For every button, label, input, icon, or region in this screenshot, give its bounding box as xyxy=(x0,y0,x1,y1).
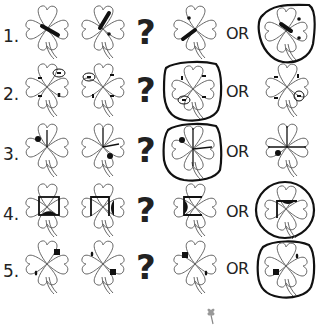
or-label: OR xyxy=(226,202,249,221)
row-number: 5. xyxy=(3,261,19,281)
row-number: 3. xyxy=(3,144,19,164)
or-label: OR xyxy=(226,259,249,278)
or-label: OR xyxy=(226,142,249,161)
question-mark: ? xyxy=(136,247,156,287)
row-number: 2. xyxy=(3,84,19,104)
question-mark: ? xyxy=(136,70,156,110)
clover-2 xyxy=(76,180,130,238)
clover-2 xyxy=(76,237,130,295)
option-b[interactable] xyxy=(253,180,317,238)
clover-2 xyxy=(76,120,130,178)
option-a[interactable] xyxy=(168,180,222,238)
clover-1 xyxy=(20,60,74,118)
option-b[interactable] xyxy=(260,60,314,118)
option-a[interactable] xyxy=(168,2,222,60)
option-a[interactable] xyxy=(160,60,224,118)
option-a[interactable] xyxy=(160,120,224,178)
puzzle-row-3: 3. ? OR xyxy=(0,120,321,178)
clover-2 xyxy=(76,60,130,118)
clover-1 xyxy=(20,120,74,178)
puzzle-row-1: 1. ? OR xyxy=(0,2,321,60)
row-number: 4. xyxy=(3,204,19,224)
question-mark: ? xyxy=(136,12,156,52)
option-b[interactable] xyxy=(253,237,317,295)
clover-1 xyxy=(20,180,74,238)
clover-1 xyxy=(20,2,74,60)
puzzle-row-4: 4. ? OR xyxy=(0,180,321,238)
row-number: 1. xyxy=(3,26,19,46)
option-b[interactable] xyxy=(253,2,317,60)
option-b[interactable] xyxy=(260,120,314,178)
puzzle-row-5: 5. ? OR xyxy=(0,237,321,295)
puzzle-row-2: 2. ? OR xyxy=(0,60,321,118)
or-label: OR xyxy=(226,82,249,101)
shamrock-logo-icon xyxy=(205,306,217,328)
question-mark: ? xyxy=(136,190,156,230)
clover-2 xyxy=(76,2,130,60)
clover-1 xyxy=(20,237,74,295)
or-label: OR xyxy=(226,24,249,43)
option-a[interactable] xyxy=(168,237,222,295)
question-mark: ? xyxy=(136,130,156,170)
